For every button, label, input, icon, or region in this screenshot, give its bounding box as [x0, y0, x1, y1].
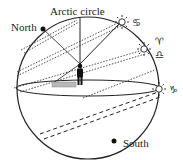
south-label: South [123, 137, 149, 149]
north-pole-dot [41, 27, 46, 32]
south-pole-dot [112, 139, 117, 144]
axis-to-sun [80, 23, 120, 64]
equinox-lower-path [83, 70, 155, 98]
sun-icon-summer [115, 15, 129, 29]
axis-shadow-line [52, 64, 80, 84]
libra-sign: ♎ [155, 49, 164, 60]
arctic-circle-label: Arctic circle [50, 5, 105, 17]
capricorn-sign: ♑ [169, 84, 178, 95]
celestial-sphere-diagram: ♋ ♈ ♎ ♑ North South Arctic circle [0, 0, 183, 160]
north-label: North [11, 21, 37, 33]
celestial-axis [43, 29, 80, 64]
winter-sun-path [40, 92, 158, 134]
figure-shadow [52, 82, 76, 87]
horizon-plane [16, 80, 160, 96]
person-icon [77, 64, 83, 85]
cancer-sign: ♋ [132, 17, 141, 28]
aries-sign: ♈ [155, 36, 164, 47]
